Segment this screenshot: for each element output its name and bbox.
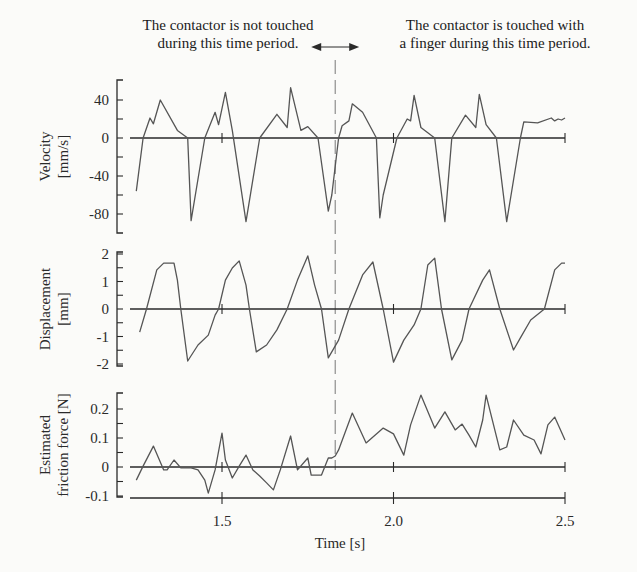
y-axis-label: Displacement[mm] [37,267,71,350]
y-tick-label: 1 [102,274,110,290]
friction-force-panel: 0.20.10-0.1Estimatedfriction force [N] [37,393,565,504]
y-tick-label: 0.2 [90,401,109,417]
x-tick-label: 2.5 [556,513,575,529]
y-tick-label: 40 [94,92,109,108]
x-tick-label: 1.5 [213,513,232,529]
double-arrow-icon [311,43,359,51]
time-axis: 1.52.02.5Time [s] [130,492,574,551]
y-tick-label: -1 [97,329,110,345]
x-tick-label: 2.0 [384,513,403,529]
y-tick-label: 0 [102,459,110,475]
y-tick-label: -2 [97,356,110,372]
data-curve [136,395,565,493]
y-tick-label: -40 [89,168,109,184]
y-axis-label: Velocity[mm/s] [37,131,71,181]
x-axis-label: Time [s] [315,535,366,551]
y-tick-label: -0.1 [85,488,109,504]
y-tick-label: -80 [89,206,109,222]
data-curve [136,88,565,222]
figure-canvas: 400-40-80Velocity[mm/s] 210-1-2Displacem… [0,0,637,572]
y-tick-label: 0 [102,301,110,317]
y-tick-label: 0.1 [90,430,109,446]
y-tick-label: 0 [102,130,110,146]
velocity-panel: 400-40-80Velocity[mm/s] [37,80,565,233]
displacement-panel: 210-1-2Displacement[mm] [37,246,565,372]
y-tick-label: 2 [102,246,110,262]
y-axis-label: Estimatedfriction force [N] [37,393,71,496]
